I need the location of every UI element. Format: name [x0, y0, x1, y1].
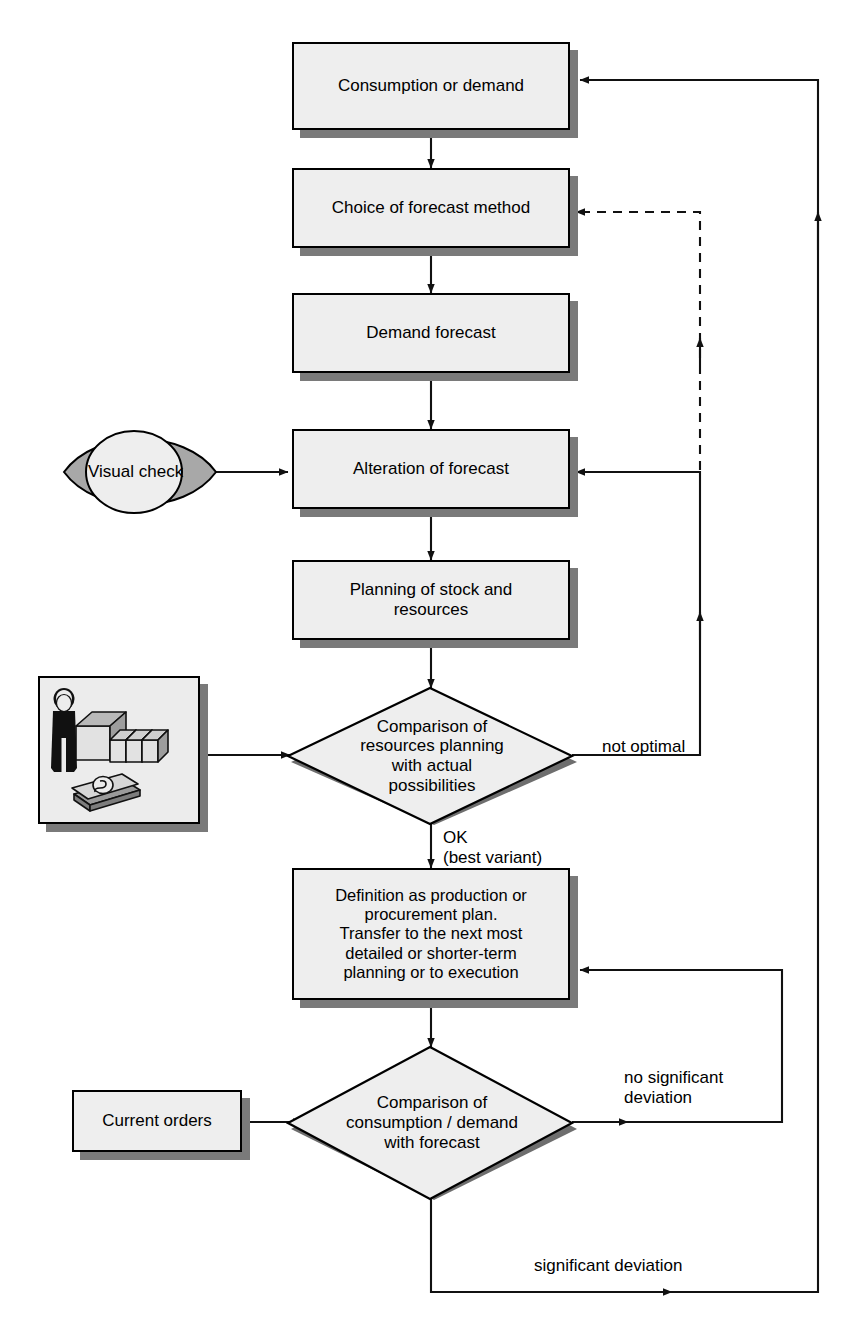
node-choice-of-forecast-method-label: Choice of forecast method [324, 198, 538, 218]
edge-label-ok-best-variant: OK (best variant) [443, 828, 542, 869]
node-definition-as-production-or-procurement-plan[interactable]: Definition as production or procurement … [292, 868, 570, 1000]
node-demand-forecast[interactable]: Demand forecast [292, 293, 570, 373]
person-icon [51, 688, 77, 772]
node-planning-of-stock-and-resources-label: Planning of stock and resources [342, 580, 521, 619]
edge-not-optimal [572, 472, 700, 755]
node-comparison-of-consumption-demand-label: Comparison of consumption / demand with … [286, 1045, 582, 1201]
node-definition-as-production-or-procurement-plan-label: Definition as production or procurement … [327, 886, 535, 982]
node-choice-of-forecast-method[interactable]: Choice of forecast method [292, 168, 570, 248]
edge-label-significant-deviation: significant deviation [534, 1256, 682, 1276]
flowchart-canvas: Consumption or demand Choice of forecast… [0, 0, 848, 1338]
node-demand-forecast-label: Demand forecast [358, 323, 503, 343]
node-visual-check-label: Visual check [62, 420, 218, 524]
node-current-orders[interactable]: Current orders [72, 1090, 242, 1152]
node-consumption-or-demand[interactable]: Consumption or demand [292, 42, 570, 130]
resources-illustration [40, 678, 198, 822]
node-comparison-of-consumption-demand[interactable]: Comparison of consumption / demand with … [286, 1045, 578, 1201]
edge-label-not-optimal: not optimal [602, 737, 685, 757]
node-resources-picture[interactable] [38, 676, 200, 824]
node-comparison-of-resources-planning[interactable]: Comparison of resources planning with ac… [286, 686, 578, 826]
edge-label-no-significant-deviation: no significant deviation [624, 1068, 723, 1108]
node-current-orders-label: Current orders [94, 1111, 220, 1131]
node-visual-check[interactable]: Visual check [62, 420, 218, 524]
node-consumption-or-demand-label: Consumption or demand [330, 76, 532, 96]
node-planning-of-stock-and-resources[interactable]: Planning of stock and resources [292, 560, 570, 640]
edge-alteration-to-choice-dashed [576, 212, 700, 470]
node-alteration-of-forecast[interactable]: Alteration of forecast [292, 429, 570, 509]
node-alteration-of-forecast-label: Alteration of forecast [345, 459, 517, 479]
node-comparison-of-resources-planning-label: Comparison of resources planning with ac… [286, 686, 584, 828]
